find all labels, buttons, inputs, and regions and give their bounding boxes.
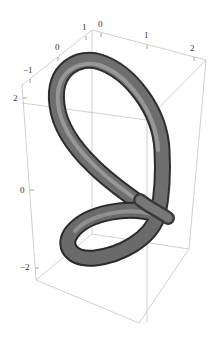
3d-plot[interactable]: 0 1 2 1 0 −1 2 0 −2 xyxy=(0,0,217,340)
z-tick-neg2: −2 xyxy=(20,262,30,272)
tube-surface xyxy=(56,60,168,258)
x-axis-labels: 0 1 2 xyxy=(98,19,195,53)
y-tick-neg1: −1 xyxy=(23,65,33,75)
y-tick-0: 0 xyxy=(55,42,60,52)
x-tick-0: 0 xyxy=(98,19,103,29)
y-tick-1: 1 xyxy=(82,22,87,32)
z-axis-labels: 2 0 −2 xyxy=(13,93,30,272)
x-tick-1: 1 xyxy=(144,30,149,40)
x-tick-2: 2 xyxy=(190,43,195,53)
z-tick-0: 0 xyxy=(20,185,25,195)
z-tick-2: 2 xyxy=(13,93,18,103)
